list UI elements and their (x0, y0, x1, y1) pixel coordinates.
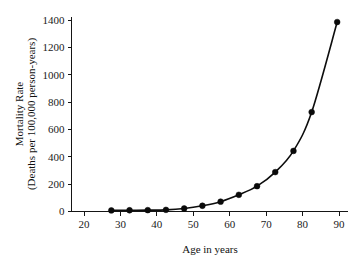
y-tick-label: 800 (48, 96, 65, 108)
y-tick-label: 1200 (43, 41, 66, 53)
y-axis-tick-labels: 0200400600800100012001400 (43, 14, 66, 218)
data-point (254, 183, 260, 189)
x-tick-label: 80 (297, 218, 309, 230)
y-tick-label: 400 (48, 151, 65, 163)
mortality-rate-chart-figure: 0200400600800100012001400 20304050607080… (0, 0, 360, 264)
chart-canvas: 0200400600800100012001400 20304050607080… (0, 0, 360, 264)
x-tick-label: 90 (334, 218, 346, 230)
x-tick-label: 70 (261, 218, 273, 230)
x-tick-label: 50 (188, 218, 200, 230)
data-point (291, 148, 297, 154)
data-point (181, 206, 187, 212)
y-tick-label: 200 (48, 178, 65, 190)
y-axis-title-line-1: Mortality Rate (13, 82, 25, 147)
data-point (334, 19, 340, 25)
data-point-markers (108, 19, 340, 213)
y-tick-label: 1000 (43, 69, 66, 81)
mortality-curve (111, 22, 337, 210)
y-axis-ticks (68, 20, 72, 212)
data-point (108, 208, 114, 214)
data-point (145, 207, 151, 213)
y-axis-title-line-2: (Deaths per 100,000 person-years) (25, 38, 38, 190)
data-point (163, 207, 169, 213)
data-point (272, 169, 278, 175)
x-axis-title: Age in years (182, 243, 238, 255)
y-tick-label: 0 (59, 205, 65, 217)
x-tick-label: 60 (224, 218, 236, 230)
y-tick-label: 1400 (43, 14, 66, 26)
x-tick-label: 30 (115, 218, 127, 230)
data-point (127, 207, 133, 213)
chart-axes (72, 17, 349, 212)
data-point (309, 109, 315, 115)
y-tick-label: 600 (48, 123, 65, 135)
x-tick-label: 40 (151, 218, 163, 230)
x-axis-ticks (84, 212, 339, 216)
x-tick-label: 20 (79, 218, 91, 230)
data-point (199, 203, 205, 209)
data-point (218, 199, 224, 205)
x-axis-tick-labels: 2030405060708090 (79, 218, 346, 230)
data-point (236, 192, 242, 198)
